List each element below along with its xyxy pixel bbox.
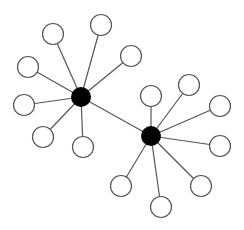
leaf-node-h2-leaf-2 (179, 75, 200, 96)
leaf-node-h2-leaf-5 (191, 176, 212, 197)
leaf-node-h2-leaf-6 (111, 176, 132, 197)
leaf-node-h2-leaf-4 (210, 136, 231, 157)
leaf-node-h1-leaf-2 (91, 15, 112, 36)
hub-node-hub-1 (71, 87, 91, 107)
leaf-node-h2-leaf-3 (210, 96, 231, 117)
hub-node-hub-2 (141, 126, 161, 146)
leaf-node-h1-leaf-5 (14, 95, 35, 116)
leaf-node-h1-leaf-4 (121, 46, 142, 67)
leaf-node-h2-leaf-7 (151, 197, 172, 218)
leaf-node-h1-leaf-6 (33, 127, 54, 148)
leaf-node-h1-leaf-1 (43, 24, 64, 45)
leaf-node-h1-leaf-3 (18, 57, 39, 78)
leaf-node-h1-leaf-7 (73, 137, 94, 158)
network-diagram (0, 0, 244, 230)
leaf-node-h2-leaf-1 (141, 86, 162, 107)
